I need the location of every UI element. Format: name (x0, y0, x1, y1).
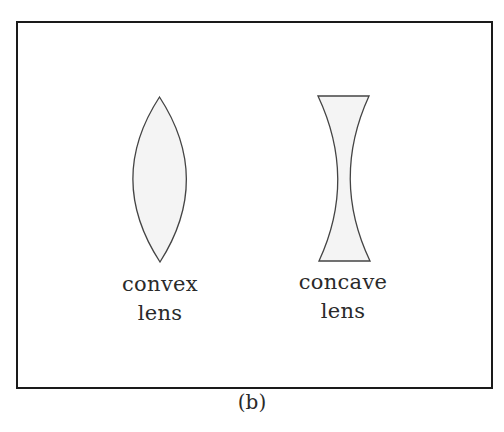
convex-lens-label: convex lens (105, 270, 215, 328)
concave-label-line1: concave (283, 268, 403, 297)
lens-diagram (0, 0, 504, 432)
convex-label-line1: convex (105, 270, 215, 299)
figure-caption: (b) (0, 390, 504, 414)
concave-lens-label: concave lens (283, 268, 403, 326)
convex-lens-shape (133, 97, 187, 262)
concave-lens-shape (318, 96, 370, 261)
concave-label-line2: lens (283, 297, 403, 326)
convex-label-line2: lens (105, 299, 215, 328)
